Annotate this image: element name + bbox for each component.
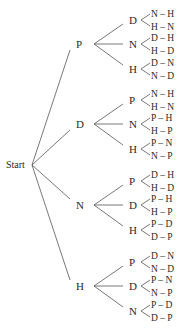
level2-node-label: D: [129, 14, 137, 26]
outcome-label: N – H: [151, 89, 174, 99]
outcome-label: H – D: [151, 46, 174, 56]
outcome-label: N – D: [151, 264, 174, 274]
level2-node-label: N: [129, 118, 137, 130]
level2-node-label: P: [129, 94, 135, 106]
outcome-label: D – H: [151, 170, 174, 180]
level1-node-label: H: [76, 280, 84, 292]
level2-node-label: H: [129, 224, 137, 236]
tree-branches: [32, 14, 150, 317]
outcome-label: H – P: [151, 126, 173, 136]
level2-node-label: N: [129, 305, 137, 317]
outcome-label: H – N: [151, 22, 174, 32]
level2-node-label: P: [129, 175, 135, 187]
outcome-label: N – D: [151, 71, 174, 81]
outcome-label: P – N: [151, 138, 172, 148]
level2-node-label: H: [129, 63, 137, 75]
outcome-label: D – H: [151, 33, 174, 43]
outcome-label: D – P: [151, 313, 173, 323]
level2-node-label: D: [129, 199, 137, 211]
outcome-label: D – N: [151, 58, 174, 68]
outcome-label: P – H: [151, 113, 172, 123]
outcome-label: D – N: [151, 251, 174, 261]
outcome-label: P – N: [151, 275, 172, 285]
level1-node-label: N: [76, 199, 84, 211]
outcome-label: P – D: [151, 300, 172, 310]
root-label: Start: [6, 159, 25, 170]
outcome-label: D – P: [151, 232, 173, 242]
tree-nodes: PDN – HH – NND – HH – DHD – NN – DDPN – …: [76, 9, 174, 323]
tree-diagram: Start PDN – HH – NND – HH – DHD – NN – D…: [0, 0, 183, 331]
level1-node-label: D: [76, 118, 84, 130]
level2-node-label: P: [129, 256, 135, 268]
outcome-label: P – H: [151, 194, 172, 204]
outcome-label: N – P: [151, 151, 173, 161]
level2-node-label: D: [129, 280, 137, 292]
level2-node-label: N: [129, 38, 137, 50]
level1-node-label: P: [76, 38, 82, 50]
outcome-label: H – N: [151, 102, 174, 112]
outcome-label: H – P: [151, 207, 173, 217]
outcome-label: N – H: [151, 9, 174, 19]
outcome-label: H – D: [151, 183, 174, 193]
outcome-label: P – D: [151, 219, 172, 229]
outcome-label: N – P: [151, 288, 173, 298]
level2-node-label: H: [129, 143, 137, 155]
